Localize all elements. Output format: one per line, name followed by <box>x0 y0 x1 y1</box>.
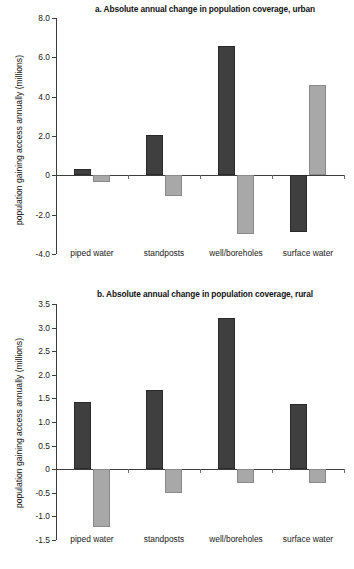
y-axis-tick-label: 0 <box>45 464 50 474</box>
bar-piped-water-dark <box>74 402 91 469</box>
plot-area-rural: 3.53.02.52.01.51.00.50-0.5-1.0-1.5piped … <box>56 304 344 540</box>
bar-standposts-dark <box>146 135 163 175</box>
y-axis-tick <box>52 398 56 399</box>
figure-container: a. Absolute annual change in population … <box>0 0 354 569</box>
y-axis-tick <box>52 351 56 352</box>
x-axis-tick <box>200 469 201 473</box>
y-axis-tick-label: 2.0 <box>38 370 50 380</box>
bar-piped-water-dark <box>74 169 91 175</box>
y-axis-tick <box>52 304 56 305</box>
bar-surface-water-light <box>309 85 326 175</box>
x-axis-category-label: well/boreholes <box>209 534 263 544</box>
y-axis-tick-label: -1.0 <box>36 511 50 521</box>
chart-title-urban: a. Absolute annual change in population … <box>60 4 350 14</box>
bar-surface-water-light <box>309 469 326 483</box>
y-axis-tick-label: 3.0 <box>38 323 50 333</box>
x-axis-tick <box>344 175 345 179</box>
y-axis-tick-label: -2.0 <box>36 210 50 220</box>
x-axis-category-label: standposts <box>144 534 185 544</box>
bar-standposts-dark <box>146 390 163 469</box>
chart-panel-urban: a. Absolute annual change in population … <box>0 0 354 284</box>
y-axis-line <box>56 304 57 540</box>
y-axis-tick <box>52 136 56 137</box>
x-axis-category-label: surface water <box>283 534 333 544</box>
y-axis-tick-label: 2.5 <box>38 346 50 356</box>
x-axis-tick <box>200 175 201 179</box>
y-axis-tick <box>52 18 56 19</box>
x-axis-category-label: surface water <box>283 248 333 258</box>
y-axis-tick-label: 1.5 <box>38 393 50 403</box>
y-axis-tick-label: 4.0 <box>38 92 50 102</box>
y-axis-tick <box>52 254 56 255</box>
y-axis-tick-label: 3.5 <box>38 299 50 309</box>
y-axis-tick <box>52 422 56 423</box>
y-axis-label-rural: population gaining access annually (mill… <box>14 313 28 533</box>
y-axis-tick <box>52 469 56 470</box>
y-axis-tick-label: -4.0 <box>36 249 50 259</box>
y-axis-tick <box>52 57 56 58</box>
y-axis-tick-label: -1.5 <box>36 535 50 545</box>
x-axis-tick <box>128 469 129 473</box>
y-axis-tick <box>52 328 56 329</box>
bar-well-boreholes-light <box>237 175 254 234</box>
bar-surface-water-dark <box>290 404 307 469</box>
x-axis-tick <box>272 469 273 473</box>
x-axis-tick <box>344 469 345 473</box>
bar-piped-water-light <box>93 175 110 182</box>
chart-title-rural: b. Absolute annual change in population … <box>60 289 350 299</box>
y-axis-tick-label: 6.0 <box>38 52 50 62</box>
y-axis-tick <box>52 97 56 98</box>
bar-well-boreholes-dark <box>218 318 235 470</box>
y-axis-tick <box>52 375 56 376</box>
bar-standposts-light <box>165 175 182 196</box>
y-axis-tick <box>52 446 56 447</box>
y-axis-tick <box>52 215 56 216</box>
y-axis-tick-label: 0 <box>45 170 50 180</box>
y-axis-tick-label: 2.0 <box>38 131 50 141</box>
y-axis-tick <box>52 540 56 541</box>
y-axis-tick-label: 8.0 <box>38 13 50 23</box>
y-axis-label-urban: population gaining access annually (mill… <box>14 30 28 250</box>
y-axis-tick <box>52 493 56 494</box>
x-axis-category-label: piped water <box>70 534 113 544</box>
x-axis-tick <box>272 175 273 179</box>
bar-well-boreholes-dark <box>218 46 235 176</box>
y-axis-tick-label: 1.0 <box>38 417 50 427</box>
chart-panel-rural: b. Absolute annual change in population … <box>0 285 354 569</box>
y-axis-tick-label: -0.5 <box>36 488 50 498</box>
plot-area-urban: 8.06.04.02.00-2.0-4.0piped waterstandpos… <box>56 18 344 254</box>
y-axis-line <box>56 18 57 254</box>
y-axis-tick <box>52 175 56 176</box>
x-axis-category-label: piped water <box>70 248 113 258</box>
x-axis-category-label: standposts <box>144 248 185 258</box>
x-axis-tick <box>128 175 129 179</box>
y-axis-tick-label: 0.5 <box>38 441 50 451</box>
y-axis-tick <box>52 516 56 517</box>
bar-piped-water-light <box>93 469 110 527</box>
bar-well-boreholes-light <box>237 469 254 483</box>
bar-surface-water-dark <box>290 175 307 232</box>
x-axis-category-label: well/boreholes <box>209 248 263 258</box>
bar-standposts-light <box>165 469 182 493</box>
